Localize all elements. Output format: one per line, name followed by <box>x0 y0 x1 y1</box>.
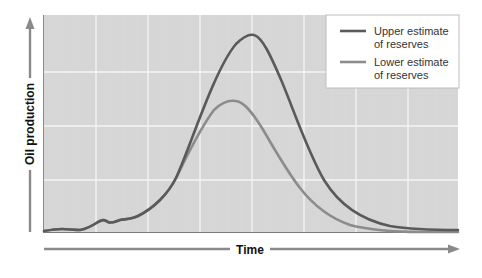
arrow-right-icon <box>448 245 460 254</box>
legend-label-upper-line1: Upper estimate <box>374 25 449 37</box>
legend-label-upper-line2: of reserves <box>374 38 429 50</box>
oil-production-chart: Upper estimate of reserves Lower estimat… <box>0 0 482 278</box>
legend-label-lower-line1: Lower estimate <box>374 56 449 68</box>
legend-label-lower-line2: of reserves <box>374 69 429 81</box>
x-axis-label: Time <box>236 243 264 257</box>
y-axis-label: Oil production <box>23 83 37 165</box>
arrow-up-icon <box>26 17 35 29</box>
legend: Upper estimate of reserves Lower estimat… <box>326 15 459 88</box>
